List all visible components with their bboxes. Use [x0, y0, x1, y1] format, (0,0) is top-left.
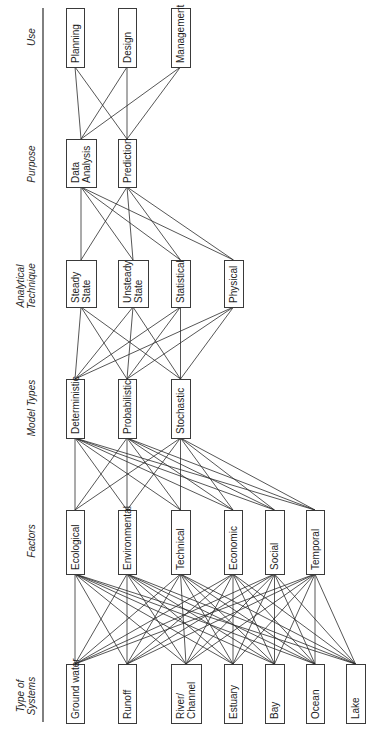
node-label: River/	[175, 693, 186, 719]
tier-label-type-of-systems: Type ofSystems	[15, 677, 37, 715]
node-label: Deterministic	[70, 376, 81, 434]
node-data-analysis: DataAnalysis	[67, 140, 97, 188]
tier-label-line: Factors	[26, 524, 37, 557]
node-label: Environmental	[122, 506, 133, 570]
node-label: Physical	[228, 266, 239, 303]
node-management: Management	[172, 4, 191, 67]
tier-label-use: Use	[26, 28, 37, 46]
node-label: Analysis	[81, 146, 92, 183]
edge-unsteady-state-to-stochastic	[133, 307, 181, 379]
edge-probabilistic-to-economic	[127, 438, 233, 510]
node-statistical: Statistical	[172, 260, 191, 307]
edge-management-to-prediction	[127, 67, 181, 139]
node-physical: Physical	[225, 261, 244, 308]
edge-probabilistic-to-temporal	[127, 438, 315, 510]
edge-temporal-to-river-channel	[186, 574, 315, 664]
diagram-nodes: PlanningDesignManagementDataAnalysisPred…	[67, 4, 366, 723]
tier-label-line: Technique	[26, 263, 37, 309]
edge-prediction-to-statistical	[127, 187, 181, 260]
edge-technical-to-ground-water	[75, 574, 181, 664]
edge-deterministic-to-social	[75, 438, 275, 510]
node-economic: Economic	[225, 511, 243, 575]
node-label: Temporal	[310, 529, 321, 570]
edge-data-analysis-to-statistical	[81, 187, 181, 260]
node-stochastic: Stochastic	[172, 380, 191, 439]
node-river-channel: River/Channel	[172, 665, 202, 724]
node-label: Economic	[228, 526, 239, 570]
tier-label-factors: Factors	[26, 524, 37, 557]
node-ocean: Ocean	[307, 665, 325, 724]
edge-data-analysis-to-unsteady-state	[81, 187, 133, 260]
edge-unsteady-state-to-deterministic	[75, 307, 133, 379]
node-prediction: Prediction	[119, 139, 137, 188]
node-technical: Technical	[172, 511, 191, 575]
edge-social-to-river-channel	[186, 574, 275, 664]
tier-label-line: Systems	[26, 677, 37, 715]
node-label: Prediction	[122, 139, 133, 183]
node-probabilistic: Probabilistic	[119, 380, 137, 439]
node-temporal: Temporal	[307, 511, 325, 575]
tier-label-line: Type of	[15, 678, 26, 712]
node-label: Ocean	[310, 690, 321, 719]
tier-label-line: Purpose	[26, 145, 37, 183]
edge-technical-to-river-channel	[181, 574, 187, 664]
tier-label-model-types: Model Types	[26, 380, 37, 437]
node-estuary: Estuary	[225, 665, 243, 724]
systems-modeling-hierarchy-diagram: UsePurposeAnalyticalTechniqueModel Types…	[0, 0, 378, 752]
tier-label-purpose: Purpose	[26, 145, 37, 183]
node-label: Ground water	[70, 658, 81, 719]
edge-physical-to-deterministic	[75, 307, 234, 379]
node-planning: Planning	[67, 9, 85, 68]
node-bay: Bay	[266, 665, 285, 724]
node-label: State	[81, 279, 92, 303]
node-label: Steady	[70, 272, 81, 303]
node-label: Lake	[350, 697, 361, 719]
edge-steady-state-to-deterministic	[75, 307, 81, 379]
edge-management-to-data-analysis	[81, 67, 181, 139]
node-unsteady-state: UnsteadyState	[119, 261, 149, 308]
edge-prediction-to-unsteady-state	[127, 187, 133, 260]
node-environmental: Environmental	[119, 506, 137, 574]
edge-planning-to-data-analysis	[75, 67, 81, 139]
node-design: Design	[119, 9, 137, 68]
node-label: Probabilistic	[122, 380, 133, 434]
node-social: Social	[266, 511, 285, 575]
edge-environmental-to-river-channel	[127, 574, 186, 664]
node-label: Social	[269, 543, 280, 570]
edge-prediction-to-physical	[127, 187, 234, 260]
node-label: State	[133, 279, 144, 303]
edge-stochastic-to-economic	[181, 438, 234, 510]
node-label: Channel	[186, 682, 197, 719]
edge-steady-state-to-stochastic	[81, 307, 181, 379]
node-label: Runoff	[122, 689, 133, 719]
node-ground-water: Ground water	[67, 658, 85, 724]
node-steady-state: SteadyState	[67, 261, 97, 308]
node-label: Planning	[70, 24, 81, 63]
node-label: Stochastic	[175, 388, 186, 434]
edge-ecological-to-lake	[75, 574, 356, 664]
edge-planning-to-prediction	[75, 67, 127, 139]
node-label: Estuary	[228, 685, 239, 719]
tier-labels: UsePurposeAnalyticalTechniqueModel Types…	[15, 28, 37, 715]
tier-label-analytical-technique: AnalyticalTechnique	[15, 263, 37, 309]
edge-design-to-data-analysis	[81, 67, 127, 139]
node-deterministic: Deterministic	[67, 376, 85, 438]
tier-label-line: Model Types	[26, 380, 37, 437]
node-label: Technical	[175, 528, 186, 570]
node-lake: Lake	[347, 665, 366, 724]
node-label: Data	[70, 161, 81, 183]
node-label: Design	[122, 32, 133, 63]
node-label: Bay	[269, 702, 280, 719]
node-runoff: Runoff	[119, 665, 137, 724]
node-label: Management	[175, 4, 186, 63]
edge-ecological-to-river-channel	[75, 574, 186, 664]
tier-label-line: Use	[26, 28, 37, 46]
edge-physical-to-stochastic	[181, 307, 234, 379]
node-label: Unsteady	[122, 261, 133, 303]
node-label: Ecological	[70, 524, 81, 570]
tier-label-line: Analytical	[15, 264, 26, 309]
node-ecological: Ecological	[67, 511, 85, 575]
node-label: Statistical	[175, 260, 186, 303]
